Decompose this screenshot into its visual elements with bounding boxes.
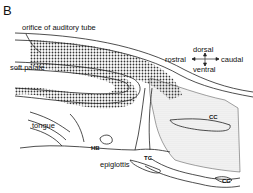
- compass-arrows-icon: [0, 0, 253, 193]
